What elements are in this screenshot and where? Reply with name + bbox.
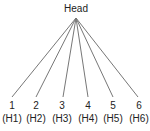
child-code-5: (H5) bbox=[101, 113, 125, 124]
child-code-3: (H3) bbox=[50, 113, 74, 124]
child-number-6: 6 bbox=[127, 100, 150, 111]
child-number-3: 3 bbox=[50, 100, 74, 111]
edge-1 bbox=[12, 18, 76, 97]
child-code-1: (H1) bbox=[0, 113, 24, 124]
child-number-4: 4 bbox=[76, 100, 100, 111]
child-number-5: 5 bbox=[101, 100, 125, 111]
child-code-2: (H2) bbox=[24, 113, 48, 124]
child-code-4: (H4) bbox=[76, 113, 100, 124]
child-number-2: 2 bbox=[24, 100, 48, 111]
tree-edges bbox=[0, 0, 150, 131]
child-code-6: (H6) bbox=[127, 113, 150, 124]
child-number-1: 1 bbox=[0, 100, 24, 111]
